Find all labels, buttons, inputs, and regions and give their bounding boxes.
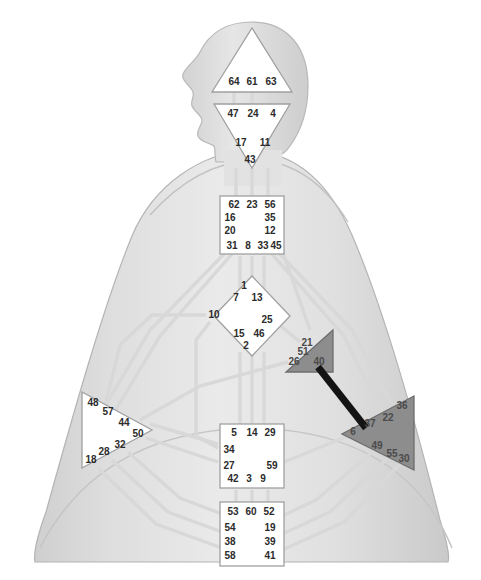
gate-39[interactable]: 39 — [264, 536, 276, 547]
gate-56[interactable]: 56 — [264, 199, 276, 210]
gate-10[interactable]: 10 — [208, 309, 220, 320]
gate-31[interactable]: 31 — [226, 240, 238, 251]
gate-53[interactable]: 53 — [227, 506, 239, 517]
gate-61[interactable]: 61 — [246, 76, 258, 87]
gate-8[interactable]: 8 — [245, 240, 251, 251]
gate-11[interactable]: 11 — [260, 137, 271, 148]
gate-19[interactable]: 19 — [264, 522, 276, 533]
gate-28[interactable]: 28 — [98, 446, 110, 457]
gate-33[interactable]: 33 — [257, 240, 269, 251]
gate-3[interactable]: 3 — [246, 473, 252, 484]
gate-41[interactable]: 41 — [264, 550, 276, 561]
gate-17[interactable]: 17 — [235, 137, 247, 148]
bodygraph-page: 6461634724417114362235616352012318334517… — [0, 0, 481, 580]
gate-37[interactable]: 37 — [364, 418, 376, 429]
gate-57[interactable]: 57 — [102, 406, 114, 417]
gate-60[interactable]: 60 — [245, 506, 257, 517]
gate-4[interactable]: 4 — [270, 108, 276, 119]
gate-7[interactable]: 7 — [233, 292, 239, 303]
gate-58[interactable]: 58 — [224, 550, 236, 561]
gate-45[interactable]: 45 — [270, 240, 282, 251]
gate-47[interactable]: 47 — [227, 108, 239, 119]
gate-16[interactable]: 16 — [224, 212, 236, 223]
gate-1[interactable]: 1 — [241, 280, 247, 291]
gate-27[interactable]: 27 — [223, 460, 235, 471]
top-crop-artifact — [0, 0, 481, 12]
gate-52[interactable]: 52 — [263, 506, 275, 517]
gate-43[interactable]: 43 — [244, 154, 256, 165]
gate-14[interactable]: 14 — [246, 427, 258, 438]
gate-5[interactable]: 5 — [231, 427, 237, 438]
gate-13[interactable]: 13 — [251, 292, 263, 303]
gate-40[interactable]: 40 — [313, 356, 325, 367]
gate-54[interactable]: 54 — [224, 522, 236, 533]
bodygraph-diagram: 6461634724417114362235616352012318334517… — [0, 0, 481, 580]
gate-12[interactable]: 12 — [264, 225, 276, 236]
gate-26[interactable]: 26 — [288, 356, 300, 367]
gate-29[interactable]: 29 — [264, 427, 276, 438]
gate-30[interactable]: 30 — [398, 453, 410, 464]
gate-25[interactable]: 25 — [261, 314, 273, 325]
gate-9[interactable]: 9 — [260, 473, 266, 484]
gate-46[interactable]: 46 — [253, 328, 265, 339]
gate-34[interactable]: 34 — [223, 444, 235, 455]
gate-38[interactable]: 38 — [224, 536, 236, 547]
gate-50[interactable]: 50 — [132, 428, 144, 439]
gate-59[interactable]: 59 — [266, 460, 278, 471]
gate-20[interactable]: 20 — [224, 225, 236, 236]
gate-36[interactable]: 36 — [396, 400, 408, 411]
gate-55[interactable]: 55 — [386, 448, 398, 459]
gate-15[interactable]: 15 — [233, 328, 245, 339]
gate-6[interactable]: 6 — [350, 426, 356, 437]
gate-32[interactable]: 32 — [114, 439, 126, 450]
gate-49[interactable]: 49 — [371, 440, 383, 451]
gate-42[interactable]: 42 — [227, 473, 239, 484]
gate-18[interactable]: 18 — [85, 454, 97, 465]
gate-63[interactable]: 63 — [265, 76, 277, 87]
gate-48[interactable]: 48 — [87, 397, 99, 408]
gate-23[interactable]: 23 — [246, 199, 258, 210]
gate-62[interactable]: 62 — [228, 199, 240, 210]
gate-35[interactable]: 35 — [264, 212, 276, 223]
gate-24[interactable]: 24 — [247, 108, 259, 119]
gate-2[interactable]: 2 — [243, 340, 249, 351]
gate-22[interactable]: 22 — [382, 412, 394, 423]
gate-64[interactable]: 64 — [228, 76, 240, 87]
gate-44[interactable]: 44 — [118, 417, 130, 428]
